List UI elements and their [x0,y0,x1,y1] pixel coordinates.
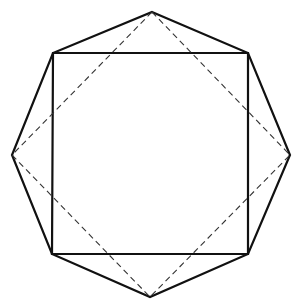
octagon-diagram [0,0,298,302]
solid-square [52,53,248,254]
